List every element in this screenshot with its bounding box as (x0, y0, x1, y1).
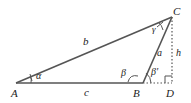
vertex-label-a: A (10, 87, 18, 99)
right-angle-marker (165, 76, 172, 83)
angle-beta-arc (128, 76, 138, 82)
vertex-label-c: C (173, 5, 181, 17)
side-label-c: c (84, 86, 89, 98)
side-label-a: a (157, 47, 162, 58)
side-label-b: b (83, 35, 89, 47)
angle-label-gamma: γ (152, 24, 156, 34)
vertex-label-b: B (133, 87, 140, 99)
angle-label-alpha: α (36, 70, 42, 81)
side-label-h: h (176, 47, 181, 58)
angle-label-beta-prime: β′ (150, 66, 159, 77)
triangle-diagram: A B C D b c a h α β β′ γ (0, 0, 191, 103)
vertex-label-d: D (165, 87, 174, 99)
angle-label-beta: β (120, 67, 126, 78)
